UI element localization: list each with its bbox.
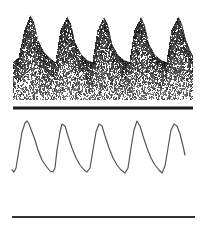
waveform-trace <box>12 121 185 173</box>
waveform-panel <box>12 121 195 217</box>
doppler-figure <box>0 0 207 228</box>
spectral-fill <box>13 15 194 102</box>
figure-canvas <box>0 0 207 228</box>
spectrogram-panel <box>13 15 194 108</box>
